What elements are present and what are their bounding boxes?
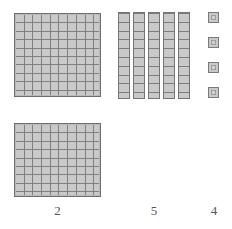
ten-rod-3 (148, 12, 160, 99)
place-value-label-hundreds: 2 (14, 204, 101, 218)
ten-rod-5 (178, 12, 190, 99)
place-value-label-ones: 4 (198, 204, 230, 218)
hundred-flat-2 (14, 123, 101, 197)
unit-cube-2 (208, 37, 219, 48)
place-value-label-tens: 5 (124, 204, 184, 218)
unit-cube-4 (208, 87, 219, 98)
ten-rod-1 (118, 12, 130, 99)
ten-rod-4 (163, 12, 175, 99)
hundred-flat-1 (14, 13, 101, 97)
unit-cube-1 (208, 12, 219, 23)
unit-cube-3 (208, 62, 219, 73)
ten-rod-2 (133, 12, 145, 99)
base-ten-blocks-diagram: 254 (0, 0, 232, 229)
